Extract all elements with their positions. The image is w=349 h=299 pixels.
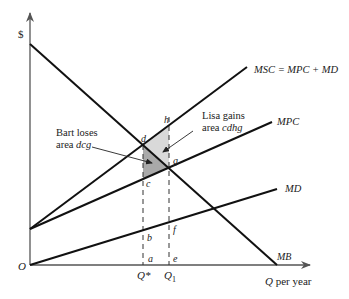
q1-tick-label: Q1 (164, 269, 176, 284)
mb-label: MB (276, 251, 291, 262)
md-label: MD (284, 183, 302, 194)
externality-chart: $ O Q per year Q* Q1 MB MSC = MPC + MD M… (0, 0, 349, 299)
point-c-label: c (146, 178, 151, 189)
origin-label: O (18, 260, 26, 272)
lisa-gains-annotation-line2: area cdhg (202, 122, 243, 133)
point-h-label: h (164, 114, 169, 125)
q-star-tick-label: Q* (137, 269, 151, 281)
point-a-label: a (148, 253, 153, 264)
msc-label: MSC = MPC + MD (253, 64, 339, 75)
point-f-label: f (173, 224, 177, 235)
point-g-label: g (173, 155, 178, 166)
point-e-label: e (173, 253, 178, 264)
y-axis-label: $ (18, 28, 24, 40)
mpc-label: MPC (276, 116, 300, 127)
x-axis-label: Q per year (265, 275, 312, 287)
point-b-label: b (147, 232, 152, 243)
bart-loses-annotation: Bart loses (56, 127, 98, 138)
mb-line (30, 44, 277, 265)
lisa-gains-annotation: Lisa gains (202, 110, 245, 121)
bart-loses-annotation-line2: area dcg (56, 139, 91, 150)
